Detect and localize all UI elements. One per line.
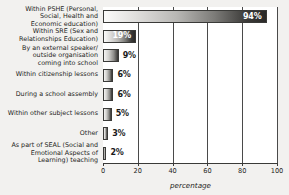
gridline bbox=[277, 7, 278, 163]
gridline bbox=[207, 7, 208, 163]
bar bbox=[103, 127, 108, 140]
x-tick-label: 20 bbox=[134, 167, 142, 175]
x-tick-mark bbox=[242, 163, 243, 166]
bar: 94% bbox=[103, 10, 267, 23]
x-tick-label: 100 bbox=[271, 167, 284, 175]
category-label-text: By an external speaker/ outside organisa… bbox=[0, 44, 98, 67]
x-tick-label: 80 bbox=[238, 167, 246, 175]
x-tick-mark bbox=[173, 163, 174, 166]
x-tick-label: 0 bbox=[101, 167, 105, 175]
x-tick-mark bbox=[103, 163, 104, 166]
category-label-text: Within citizenship lessons bbox=[0, 71, 98, 79]
x-tick-mark bbox=[277, 163, 278, 166]
bar bbox=[103, 108, 112, 121]
x-tick-label: 60 bbox=[203, 167, 211, 175]
bar bbox=[103, 147, 106, 160]
category-label-text: Within other subject lessons bbox=[0, 110, 98, 118]
bar bbox=[103, 69, 113, 82]
category-label-text: Within SRE (Sex and Relationships Educat… bbox=[0, 29, 98, 44]
bar bbox=[103, 49, 119, 62]
bar: 19% bbox=[103, 30, 136, 43]
category-label: As part of SEAL (Social and Emotional As… bbox=[0, 144, 98, 164]
category-label: During a school assembly bbox=[0, 85, 98, 105]
x-axis-title: percentage bbox=[103, 181, 278, 190]
gridline bbox=[138, 7, 139, 163]
bar-value-label: 5% bbox=[116, 110, 129, 118]
x-tick-mark bbox=[138, 163, 139, 166]
category-label-text: During a school assembly bbox=[0, 91, 98, 99]
category-label: Within citizenship lessons bbox=[0, 66, 98, 86]
gridline bbox=[242, 7, 243, 163]
category-label: Within other subject lessons bbox=[0, 105, 98, 125]
bar bbox=[103, 88, 113, 101]
bar-value-label: 9% bbox=[123, 52, 136, 60]
bar-value-label: 19% bbox=[112, 32, 131, 40]
x-axis-line bbox=[103, 163, 278, 164]
category-label-text: As part of SEAL (Social and Emotional As… bbox=[0, 142, 98, 165]
category-label: By an external speaker/ outside organisa… bbox=[0, 46, 98, 66]
x-tick-mark bbox=[207, 163, 208, 166]
bar-value-label: 94% bbox=[243, 13, 262, 21]
bar-value-label: 6% bbox=[117, 91, 130, 99]
gridline bbox=[173, 7, 174, 163]
x-tick-label: 40 bbox=[168, 167, 176, 175]
category-label: Within PSHE (Personal, Social, Health an… bbox=[0, 7, 98, 27]
bar-value-label: 3% bbox=[112, 130, 125, 138]
bar-value-label: 2% bbox=[110, 149, 123, 157]
category-label-text: Other bbox=[0, 130, 98, 138]
bar-value-label: 6% bbox=[117, 71, 130, 79]
bar-chart: 94%19%9%6%6%5%3%2% Within PSHE (Personal… bbox=[0, 0, 289, 195]
category-label-text: Within PSHE (Personal, Social, Health an… bbox=[0, 5, 98, 28]
